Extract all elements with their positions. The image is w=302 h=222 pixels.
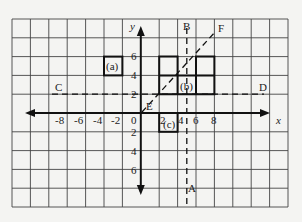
x-tick-neg8: -8 xyxy=(55,114,65,126)
arrow-up-icon xyxy=(137,26,145,36)
origin-label: 0 xyxy=(131,114,137,126)
y-tick-neg2: 2 xyxy=(131,126,137,138)
y-tick-2: 2 xyxy=(131,88,137,100)
line-label-E: E xyxy=(146,100,153,112)
line-label-F: F xyxy=(218,22,224,34)
y-tick-6: 6 xyxy=(131,50,137,62)
line-label-B: B xyxy=(183,20,190,32)
x-axis-label: x xyxy=(275,114,281,126)
coordinate-grid-diagram: x y 0 -8 -6 -4 -2 2 4 6 8 2 4 6 2 4 6 (a… xyxy=(0,0,302,222)
shape-c-label: (c) xyxy=(163,118,176,131)
y-axis-label: y xyxy=(129,20,135,32)
x-tick-neg4: -4 xyxy=(93,114,103,126)
x-tick-6: 6 xyxy=(193,114,199,126)
x-tick-8: 8 xyxy=(211,114,217,126)
labels: x y 0 -8 -6 -4 -2 2 4 6 8 2 4 6 2 4 6 (a… xyxy=(55,20,281,194)
arrow-down-icon xyxy=(137,185,145,195)
line-EF xyxy=(142,31,216,112)
x-tick-4: 4 xyxy=(178,114,184,126)
line-label-D: D xyxy=(259,81,267,93)
line-label-A: A xyxy=(188,182,196,194)
shape-a-label: (a) xyxy=(106,60,119,73)
y-tick-4: 4 xyxy=(131,69,137,81)
dashed-lines xyxy=(52,28,264,208)
y-tick-neg6: 6 xyxy=(131,164,137,176)
x-tick-neg6: -6 xyxy=(74,114,84,126)
shape-b-label: (b) xyxy=(180,80,193,93)
line-label-C: C xyxy=(55,81,62,93)
y-tick-neg4: 4 xyxy=(131,145,137,157)
x-tick-neg2: -2 xyxy=(111,114,120,126)
arrow-right-icon xyxy=(260,109,270,117)
